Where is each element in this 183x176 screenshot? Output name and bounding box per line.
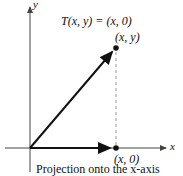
transformation-title: T(x, y) = (x, 0): [61, 14, 132, 29]
caption: Projection onto the x-axis: [36, 162, 160, 176]
point-xy: [113, 45, 119, 51]
x-axis-label: x: [170, 140, 175, 152]
vector-arrow: [30, 52, 112, 148]
y-axis-label: y: [33, 0, 38, 10]
point-x0: [113, 145, 119, 151]
point-xy-label: (x, y): [115, 30, 140, 45]
